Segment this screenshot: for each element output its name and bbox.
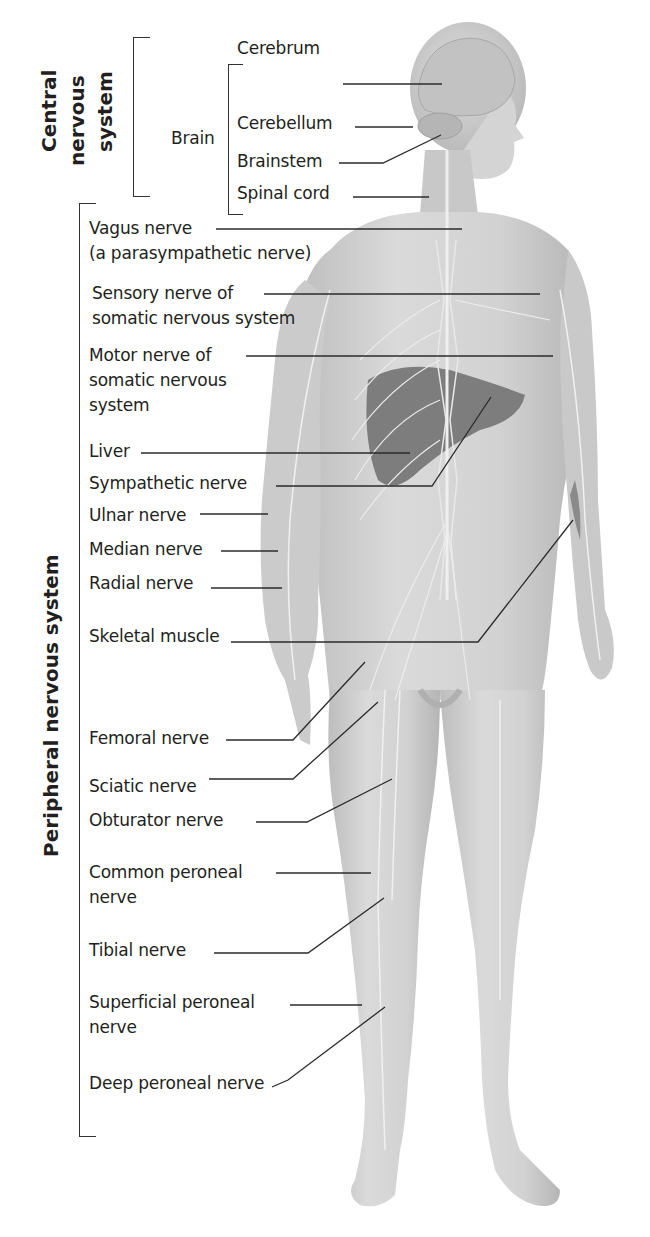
label-sensory-nerve: Sensory nerve ofsomatic nervous system bbox=[92, 281, 295, 331]
label-line: Spinal cord bbox=[237, 183, 330, 203]
label-line: Obturator nerve bbox=[89, 810, 223, 830]
label-line: Femoral nerve bbox=[89, 728, 209, 748]
label-deep-peroneal-nerve: Deep peroneal nerve bbox=[89, 1073, 264, 1093]
cns-group-title-3: system bbox=[94, 71, 116, 152]
label-line: (a parasympathetic nerve) bbox=[89, 241, 311, 266]
label-cerebrum: Cerebrum bbox=[237, 38, 320, 58]
label-tibial-nerve: Tibial nerve bbox=[89, 940, 186, 960]
cns-group-title-2: nervous bbox=[66, 75, 88, 166]
label-median-nerve: Median nerve bbox=[89, 539, 203, 559]
label-cerebellum: Cerebellum bbox=[237, 113, 332, 133]
label-obturator-nerve: Obturator nerve bbox=[89, 810, 223, 830]
label-line: Cerebellum bbox=[237, 113, 332, 133]
label-line: Median nerve bbox=[89, 539, 203, 559]
label-radial-nerve: Radial nerve bbox=[89, 573, 193, 593]
cns-title-line-1: Central bbox=[38, 70, 60, 152]
label-vagus-nerve: Vagus nerve(a parasympathetic nerve) bbox=[89, 216, 311, 266]
label-line: Ulnar nerve bbox=[89, 505, 186, 525]
label-line: somatic nervous system bbox=[92, 306, 295, 331]
label-line: Tibial nerve bbox=[89, 940, 186, 960]
label-femoral-nerve: Femoral nerve bbox=[89, 728, 209, 748]
label-spinal-cord: Spinal cord bbox=[237, 183, 330, 203]
label-liver: Liver bbox=[89, 441, 130, 461]
label-line: Deep peroneal nerve bbox=[89, 1073, 264, 1093]
label-sciatic-nerve: Sciatic nerve bbox=[89, 776, 197, 796]
label-line: Brainstem bbox=[237, 151, 322, 171]
label-line: Sciatic nerve bbox=[89, 776, 197, 796]
label-line: Cerebrum bbox=[237, 38, 320, 58]
label-skeletal-muscle: Skeletal muscle bbox=[89, 626, 220, 646]
pns-group-title: Peripheral nervous system bbox=[40, 554, 62, 857]
cns-title-line-2: nervous bbox=[66, 75, 88, 166]
label-line: nerve bbox=[89, 1015, 255, 1040]
brain-label: Brain bbox=[171, 128, 215, 148]
cns-group-title: Central bbox=[38, 70, 60, 152]
label-line: nerve bbox=[89, 885, 243, 910]
label-line: Skeletal muscle bbox=[89, 626, 220, 646]
label-line: Superficial peroneal bbox=[89, 990, 255, 1015]
label-line: Motor nerve of bbox=[89, 343, 227, 368]
label-line: Vagus nerve bbox=[89, 216, 311, 241]
cns-title-line-3: system bbox=[94, 71, 116, 152]
label-ulnar-nerve: Ulnar nerve bbox=[89, 505, 186, 525]
label-brainstem: Brainstem bbox=[237, 151, 322, 171]
label-line: Liver bbox=[89, 441, 130, 461]
label-line: Sympathetic nerve bbox=[89, 473, 247, 493]
label-superficial-peroneal-nerve: Superficial peronealnerve bbox=[89, 990, 255, 1040]
label-sympathetic-nerve: Sympathetic nerve bbox=[89, 473, 247, 493]
nervous-system-diagram: Central nervous system Peripheral nervou… bbox=[0, 0, 650, 1237]
label-line: Sensory nerve of bbox=[92, 281, 295, 306]
cns-bracket bbox=[133, 37, 150, 197]
label-motor-nerve: Motor nerve ofsomatic nervoussystem bbox=[89, 343, 227, 418]
label-line: Radial nerve bbox=[89, 573, 193, 593]
label-common-peroneal-nerve: Common peronealnerve bbox=[89, 860, 243, 910]
label-line: Common peroneal bbox=[89, 860, 243, 885]
pns-title-text: Peripheral nervous system bbox=[40, 554, 62, 857]
label-line: somatic nervous bbox=[89, 368, 227, 393]
label-line: system bbox=[89, 393, 227, 418]
